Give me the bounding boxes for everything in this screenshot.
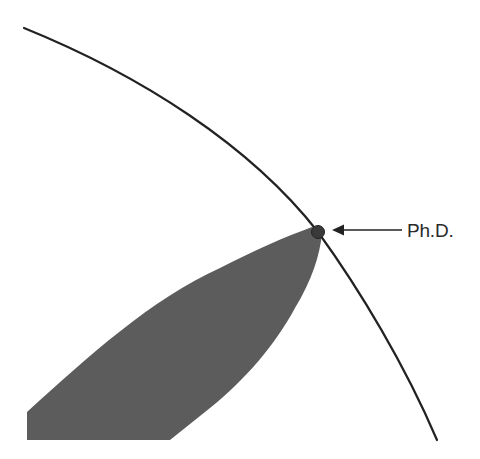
phd-label: Ph.D.	[407, 220, 454, 242]
arrow-head-icon	[332, 225, 344, 236]
phd-dot	[312, 226, 325, 239]
specialty-region	[27, 227, 322, 440]
